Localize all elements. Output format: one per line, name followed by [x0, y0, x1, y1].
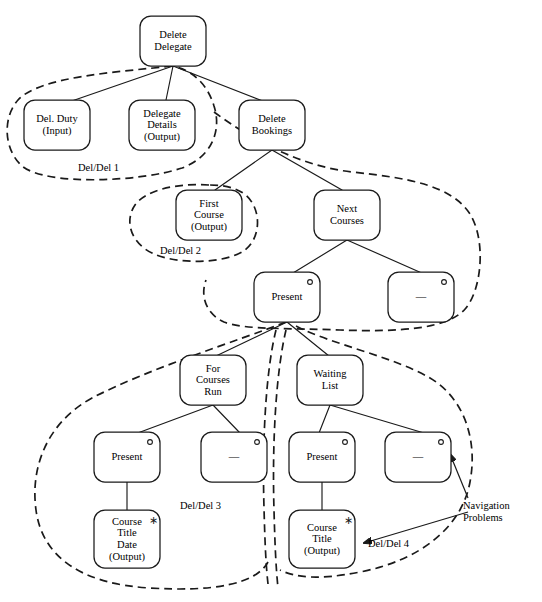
group-del-del-3: Del/Del 3 — [180, 500, 221, 511]
arrow-to-dash-3 — [450, 454, 468, 498]
edge-present-1-waiting-list — [287, 322, 329, 356]
group-del-del-2: Del/Del 2 — [160, 245, 201, 256]
node-box-waiting-list[interactable] — [297, 355, 363, 405]
edge-waiting-list-dash-3 — [330, 405, 424, 433]
node-box-del-duty[interactable] — [24, 100, 90, 150]
group-divider-right — [274, 330, 287, 588]
node-boxes: ∗∗ — [24, 16, 454, 568]
edge-next-courses-present-1 — [293, 240, 347, 273]
node-box-next-courses[interactable] — [314, 190, 380, 240]
node-box-for-courses-run[interactable] — [180, 355, 246, 405]
edge-delete-delegate-delegate-details — [166, 66, 173, 100]
repetition-asterisk-icon: ∗ — [149, 514, 158, 526]
node-box-delegate-details[interactable] — [129, 100, 195, 150]
navigation-problems-label: Navigation Problems — [463, 500, 510, 525]
edge-next-courses-dash-1 — [347, 240, 424, 274]
repetition-asterisk-icon: ∗ — [344, 514, 353, 526]
edge-delete-bookings-next-courses — [272, 150, 342, 190]
group-del-del-1: Del/Del 1 — [78, 162, 119, 173]
node-box-delete-delegate[interactable] — [140, 16, 206, 66]
node-box-first-course[interactable] — [176, 190, 242, 240]
node-box-delete-bookings[interactable] — [239, 100, 305, 150]
group-del-del-4: Del/Del 4 — [368, 538, 409, 549]
edge-waiting-list-present-3 — [319, 405, 330, 433]
edge-for-courses-run-dash-2 — [213, 405, 240, 433]
diagram-canvas: ∗∗ Delete DelegateDel. Duty (Input)Deleg… — [0, 0, 542, 602]
edge-delete-bookings-first-course — [215, 150, 272, 190]
diagram-vector-layer: ∗∗ — [0, 0, 542, 602]
edge-delete-delegate-delete-bookings — [173, 66, 268, 103]
edge-for-courses-run-present-2 — [135, 405, 213, 434]
